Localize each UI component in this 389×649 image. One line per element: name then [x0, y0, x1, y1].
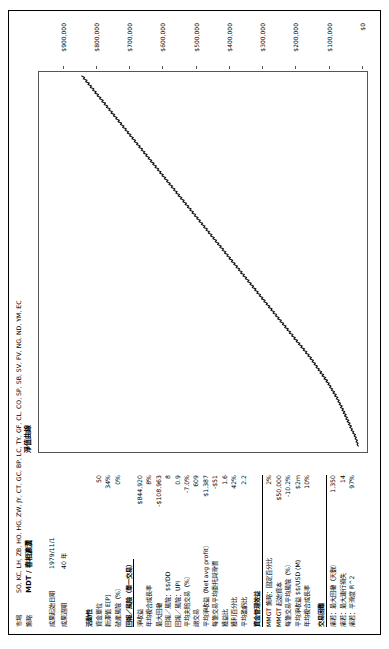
y-axis-tick-label: $900,000 — [59, 23, 66, 52]
metric-label: 獲利百分比 — [229, 519, 238, 627]
section-activity: 活動性 資金單位50新澤值 E[P]34%破產風險（%）0% — [84, 475, 122, 627]
section-activity-rows: 資金單位50新澤值 E[P]34%破產風險（%）0% — [94, 475, 122, 627]
metric-label: 痛若：平滑度 R^2 — [347, 519, 356, 627]
metric-row: 破產風險（%）0% — [113, 475, 122, 627]
section-money-management-title: 資金管理效益 — [252, 475, 261, 627]
metric-value: 2% — [264, 475, 273, 519]
metric-row: 每筆交易平均委托與滑價-$51 — [210, 475, 219, 627]
report-sheet: 市場 SO, KC, LH, ZB, HO, HG, ZW, JY, CT, G… — [0, 0, 389, 649]
y-axis-tick-label: $600,000 — [159, 23, 166, 52]
chart-title: 淨值曲線 — [22, 425, 32, 453]
equity-curve-chart: 淨值曲線 $0$100,000$200,000$300,000$400,000$… — [22, 23, 374, 453]
metric-row: 痛若：最大回撤（天數）1,350 — [328, 475, 337, 627]
metric-value: 609 — [191, 475, 200, 519]
y-axis-tick-label: $100,000 — [325, 23, 332, 52]
metric-value: 97% — [347, 475, 356, 519]
metric-label: MMGT 策略：固定百分比 — [264, 519, 273, 627]
metric-label: 淨收益 — [135, 519, 144, 627]
period-length-value: 40 年 — [58, 509, 70, 569]
metric-row: 平均淨收益（Net avg profit）$1,387 — [201, 475, 210, 627]
metric-value: $844,920 — [135, 475, 144, 519]
metric-value: 0.9 — [173, 475, 182, 519]
metric-row: 最大回撤-$108,963 — [154, 475, 163, 627]
metric-row: 總交易609 — [191, 475, 200, 627]
y-axis-tick-label: $0 — [359, 23, 366, 31]
metric-row: 平均淨收益 $$/USD (M)$2m — [293, 475, 302, 627]
metric-label: 每筆交易平均風險（%） — [283, 519, 292, 627]
section-difficulty-title: 交易困難 — [316, 475, 325, 627]
metric-value: 8% — [144, 475, 153, 519]
metric-value: -10.2% — [283, 475, 292, 519]
metric-row: 新澤值 E[P]34% — [103, 475, 112, 627]
metric-row: 獲利百分比42% — [229, 475, 238, 627]
metric-value: $1,387 — [201, 475, 210, 519]
metric-label: 新澤值 E[P] — [103, 519, 112, 627]
metric-label: 痛若：最大回撤（天數） — [328, 519, 337, 627]
metric-label: 最大回撤 — [154, 519, 163, 627]
chart-y-axis: $0$100,000$200,000$300,000$400,000$500,0… — [38, 23, 368, 69]
metric-row: 資金單位50 — [94, 475, 103, 627]
section-returns-risk-title: 回報／風險（單一交易） — [124, 559, 134, 627]
y-axis-tick-mark — [196, 66, 197, 69]
section-money-management: 資金管理效益 MMGT 策略：固定百分比2%MMGT 起始資本$50,000每筆… — [252, 475, 312, 627]
metric-value: -$51 — [210, 475, 219, 519]
metric-row: 痛若：平滑度 R^297% — [347, 475, 356, 627]
start-date-label: 成果起始日期 — [46, 569, 58, 627]
metric-value: 14 — [338, 475, 347, 519]
strategy-label: 策略 — [24, 593, 33, 627]
metric-label: 年均複合成長率 — [144, 519, 153, 627]
metric-value: -$108,963 — [154, 475, 163, 519]
metric-row: 年均複合成長率10% — [302, 475, 311, 627]
metric-row: MMGT 起始資本$50,000 — [274, 475, 283, 627]
metric-label: 每筆交易平均委托與滑價 — [210, 519, 219, 627]
y-axis-tick-mark — [262, 66, 263, 69]
metric-value: 34% — [103, 475, 112, 519]
y-axis-tick-label: $500,000 — [192, 23, 199, 52]
metric-row: 獲益比1.6 — [220, 475, 229, 627]
metric-value: 8 — [163, 475, 172, 519]
y-axis-tick-mark — [295, 66, 296, 69]
metric-row: 淨收益$844,920 — [135, 475, 144, 627]
y-axis-tick-label: $300,000 — [259, 23, 266, 52]
metric-label: 回報／風險：$$/DD — [163, 519, 172, 627]
metric-value: 50 — [94, 475, 103, 519]
metric-value: 42% — [229, 475, 238, 519]
metric-row: MMGT 策略：固定百分比2% — [264, 475, 273, 627]
metric-label: 年均複合成長率 — [302, 519, 311, 627]
metric-label: 平均盈虧比 — [239, 519, 248, 627]
report-frame: 市場 SO, KC, LH, ZB, HO, HG, ZW, JY, CT, G… — [0, 0, 389, 649]
section-money-management-rows: MMGT 策略：固定百分比2%MMGT 起始資本$50,000每筆交易平均風險（… — [264, 475, 311, 627]
start-date-value: 1979/11/1 — [46, 509, 58, 569]
market-label: 市場 — [14, 593, 23, 627]
section-activity-title: 活動性 — [84, 475, 93, 627]
metric-value: 1.6 — [220, 475, 229, 519]
metric-label: 總交易 — [191, 519, 200, 627]
metric-label: 破產風險（%） — [113, 519, 122, 627]
section-money-management-rule — [262, 475, 263, 627]
metric-row: 平均盈虧比2.2 — [239, 475, 248, 627]
metric-row: 每筆交易平均風險（%）-10.2% — [283, 475, 292, 627]
metric-value: 2.2 — [239, 475, 248, 519]
y-axis-tick-mark — [162, 66, 163, 69]
y-axis-tick-mark — [129, 66, 130, 69]
y-axis-tick-mark — [329, 66, 330, 69]
metric-label: 獲益比 — [220, 519, 229, 627]
chart-plot-area — [38, 71, 368, 453]
section-difficulty: 交易困難 痛若：最大回撤（天數）1,350痛若：最大連行損失14痛若：平滑度 R… — [316, 475, 357, 627]
y-axis-tick-mark — [362, 66, 363, 69]
metric-label: 平均淨收益（Net avg profit） — [201, 519, 210, 627]
metric-value: 0% — [113, 475, 122, 519]
metric-row: 回報／風險：UPI0.9 — [173, 475, 182, 627]
period-length-label: 成果週期 — [58, 569, 70, 627]
metric-label: 平均淨收益 $$/USD (M) — [293, 519, 302, 627]
y-axis-tick-label: $700,000 — [126, 23, 133, 52]
section-returns-risk-rows: 淨收益$844,920年均複合成長率8%最大回撤-$108,963回報／風險：$… — [135, 475, 248, 627]
y-axis-tick-label: $400,000 — [225, 23, 232, 52]
section-returns-risk: 回報／風險（單一交易） 淨收益$844,920年均複合成長率8%最大回撤-$10… — [124, 475, 248, 627]
metric-row: 回報／風險：$$/DD8 — [163, 475, 172, 627]
metric-value: 10% — [302, 475, 311, 519]
y-axis-tick-mark — [96, 66, 97, 69]
equity-curve-line — [39, 72, 367, 452]
section-difficulty-rule — [326, 475, 327, 627]
y-axis-tick-label: $800,000 — [92, 23, 99, 52]
